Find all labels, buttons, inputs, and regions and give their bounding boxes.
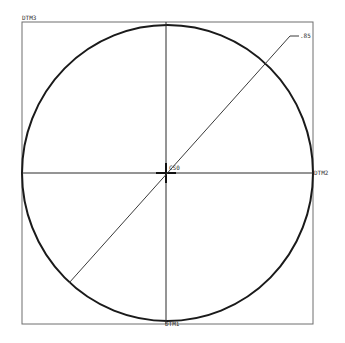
datum-label-dtm2[interactable]: DTM2 — [314, 169, 329, 176]
cad-drawing-canvas: DTM3 DTM2 DTM1 CS0 .85 — [0, 0, 345, 343]
dimension-value[interactable]: .85 — [300, 32, 311, 39]
csys-label[interactable]: CS0 — [169, 164, 180, 171]
diameter-dimension-line[interactable] — [69, 36, 290, 283]
datum-label-dtm3[interactable]: DTM3 — [22, 14, 37, 21]
datum-label-dtm1[interactable]: DTM1 — [165, 320, 180, 327]
